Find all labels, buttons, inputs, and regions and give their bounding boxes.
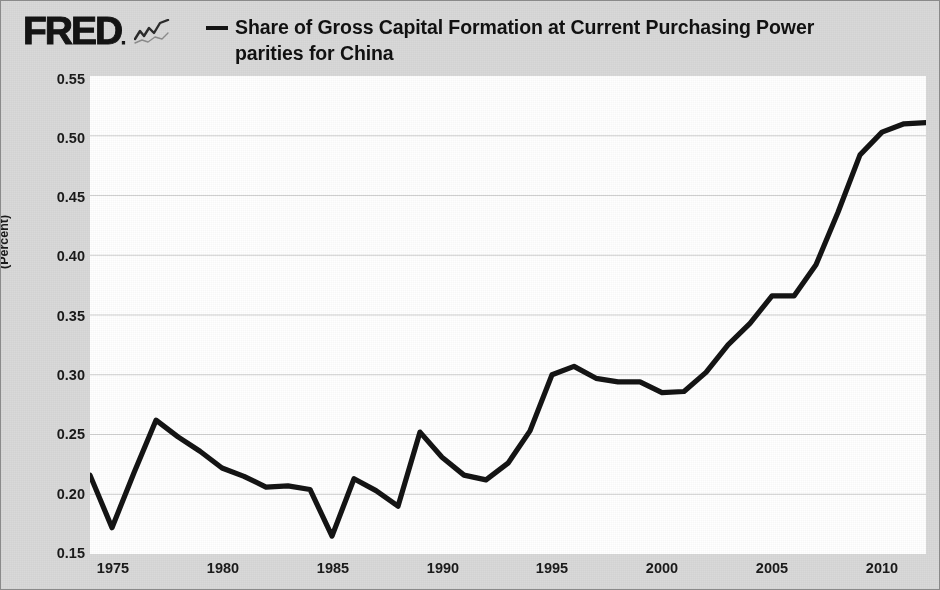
y-tick-label: 0.45: [27, 189, 85, 205]
x-tick-label: 1995: [536, 560, 568, 576]
fred-logo-dot: .: [121, 30, 125, 47]
y-tick-label: 0.15: [27, 545, 85, 561]
chart-canvas: [90, 76, 926, 554]
y-tick-label: 0.20: [27, 486, 85, 502]
y-tick-label: 0.50: [27, 130, 85, 146]
x-tick-label: 1980: [207, 560, 239, 576]
fred-logo: FRED.: [23, 11, 126, 50]
y-tick-label: 0.55: [27, 71, 85, 87]
gridlines: [90, 136, 926, 495]
x-tick-label: 2005: [756, 560, 788, 576]
fred-chart-figure: FRED. Share of Gross Capital Formation a…: [0, 0, 940, 590]
y-tick-label: 0.35: [27, 308, 85, 324]
y-tick-label: 0.30: [27, 367, 85, 383]
x-tick-label: 2010: [866, 560, 898, 576]
x-axis-tick-labels: 1975 1980 1985 1990 1995 2000 2005 2010: [1, 560, 940, 582]
x-tick-label: 1985: [317, 560, 349, 576]
series-line-china: [90, 123, 926, 536]
fred-logo-text: FRED: [23, 9, 121, 52]
legend-line-swatch: [206, 26, 228, 30]
sparkline-icon: [134, 19, 170, 45]
y-tick-label: 0.40: [27, 248, 85, 264]
legend: Share of Gross Capital Formation at Curr…: [206, 14, 906, 66]
plot-area: [90, 76, 926, 554]
y-axis-title: (Percent): [0, 215, 11, 269]
y-tick-label: 0.25: [27, 426, 85, 442]
x-tick-label: 1975: [97, 560, 129, 576]
legend-series-label: Share of Gross Capital Formation at Curr…: [235, 14, 883, 66]
legend-item: Share of Gross Capital Formation at Curr…: [206, 14, 906, 66]
chart-header: FRED. Share of Gross Capital Formation a…: [1, 1, 940, 71]
x-tick-label: 1990: [427, 560, 459, 576]
y-axis-tick-labels: 0.55 0.50 0.45 0.40 0.35 0.30 0.25 0.20 …: [23, 76, 85, 554]
x-tick-label: 2000: [646, 560, 678, 576]
